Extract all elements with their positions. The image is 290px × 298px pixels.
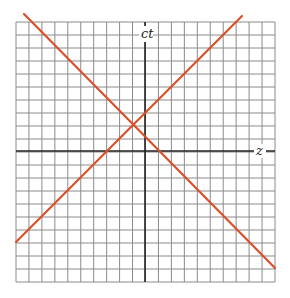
ct-axis-label: ct [141, 26, 154, 41]
spacetime-diagram: ct z [0, 0, 290, 298]
right-moving-light-ray [16, 16, 242, 242]
z-axis-label: z [255, 143, 263, 158]
